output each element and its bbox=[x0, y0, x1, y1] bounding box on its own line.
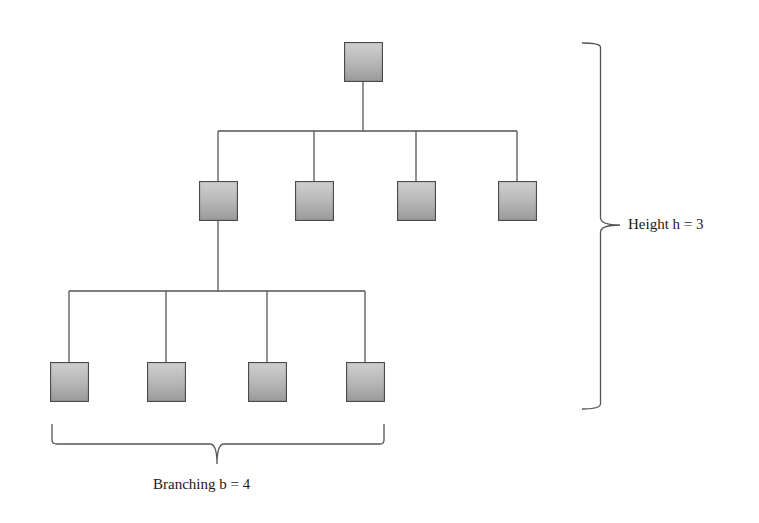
tree-node-root bbox=[344, 42, 383, 82]
tree-node-level2-2 bbox=[147, 362, 186, 402]
tree-node-level2-1 bbox=[50, 362, 89, 402]
branching-label: Branching b = 4 bbox=[153, 477, 250, 492]
tree-node-level1-4 bbox=[498, 181, 537, 221]
height-label: Height h = 3 bbox=[628, 217, 704, 232]
tree-node-level2-3 bbox=[248, 362, 287, 402]
tree-node-level1-1 bbox=[199, 181, 238, 221]
height-brace bbox=[582, 43, 620, 409]
branching-brace bbox=[52, 424, 384, 464]
tree-node-level2-4 bbox=[346, 362, 385, 402]
tree-node-level1-2 bbox=[295, 181, 334, 221]
tree-node-level1-3 bbox=[397, 181, 436, 221]
tree-diagram: Height h = 3 Branching b = 4 bbox=[0, 0, 759, 523]
